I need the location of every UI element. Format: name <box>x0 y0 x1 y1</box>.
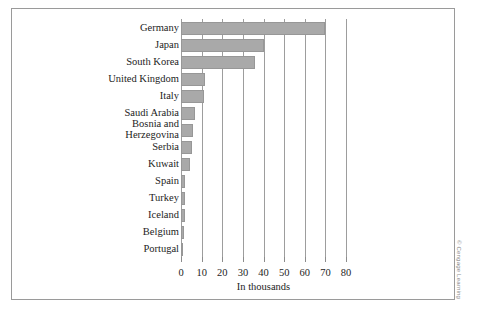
figure-frame: 01020304050607080GermanyJapanSouth Korea… <box>11 8 455 300</box>
bar <box>181 56 255 69</box>
bar <box>181 209 185 222</box>
bar <box>181 175 185 188</box>
plot-area: 01020304050607080GermanyJapanSouth Korea… <box>12 9 456 301</box>
category-label: Kuwait <box>29 159 179 170</box>
bar <box>181 107 195 120</box>
bar-row: Germany <box>12 21 456 38</box>
bar-row: Belgium <box>12 225 456 242</box>
bar-row: Serbia <box>12 140 456 157</box>
bar <box>181 39 264 52</box>
copyright-credit: © Cengage Learning <box>456 240 462 299</box>
bar <box>181 90 204 103</box>
x-axis-title: In thousands <box>181 281 346 292</box>
bar-row: Portugal <box>12 242 456 259</box>
category-label: Saudi Arabia <box>29 108 179 119</box>
category-label: Iceland <box>29 210 179 221</box>
category-label: Bosnia and Herzegovina <box>29 119 179 140</box>
category-label: Serbia <box>29 142 179 153</box>
category-label: Belgium <box>29 227 179 238</box>
bar-row: Spain <box>12 174 456 191</box>
category-label: Italy <box>29 91 179 102</box>
category-label: Turkey <box>29 193 179 204</box>
bar-row: United Kingdom <box>12 72 456 89</box>
category-label: Japan <box>29 40 179 51</box>
bar <box>181 226 184 239</box>
category-label: Germany <box>29 23 179 34</box>
x-tick-label: 80 <box>334 267 358 278</box>
bar-row: South Korea <box>12 55 456 72</box>
category-label: Portugal <box>29 244 179 255</box>
bar-chart: 01020304050607080GermanyJapanSouth Korea… <box>12 9 456 301</box>
bar-row: Turkey <box>12 191 456 208</box>
bar <box>181 243 183 256</box>
bar <box>181 192 185 205</box>
bar-row: Bosnia and Herzegovina <box>12 123 456 140</box>
bar-row: Japan <box>12 38 456 55</box>
bar-row: Italy <box>12 89 456 106</box>
bar-row: Iceland <box>12 208 456 225</box>
bar <box>181 124 193 137</box>
bar <box>181 73 205 86</box>
category-label: United Kingdom <box>29 74 179 85</box>
bar <box>181 141 192 154</box>
category-label: Spain <box>29 176 179 187</box>
category-label: South Korea <box>29 57 179 68</box>
bar <box>181 22 325 35</box>
bar-row: Kuwait <box>12 157 456 174</box>
bar <box>181 158 190 171</box>
